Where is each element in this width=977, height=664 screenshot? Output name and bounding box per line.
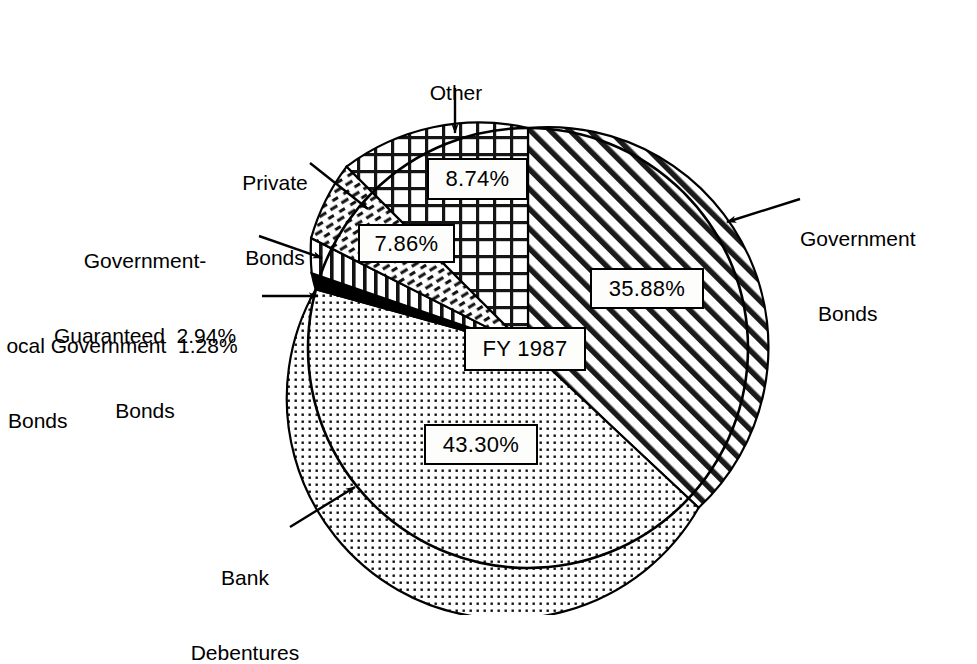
- callout-other-bonds: Other Bonds: [396, 30, 516, 230]
- fiscal-year-label: FY 1987: [483, 338, 568, 360]
- callout-local-government-line1-row: ocal Government 1.28%: [0, 333, 260, 358]
- bank-debentures-value-box: 43.30%: [424, 424, 538, 465]
- callout-government-bonds-line1: Government: [800, 226, 970, 251]
- callout-bank-debentures-line2: Debentures: [155, 640, 335, 664]
- callout-bank-debentures-line1: Bank: [155, 565, 335, 590]
- bank-debentures-value: 43.30%: [443, 434, 519, 456]
- other-bonds-value: 8.74%: [446, 168, 510, 190]
- callout-government-bonds: Government Bonds: [800, 176, 970, 376]
- callout-government-guaranteed-line1: Government-: [30, 248, 260, 273]
- private-bonds-value-box: 7.86%: [358, 224, 455, 263]
- callout-local-government-line1: ocal Government: [6, 334, 166, 357]
- private-bonds-value: 7.86%: [375, 233, 439, 255]
- other-bonds-value-box: 8.74%: [427, 158, 528, 200]
- callout-other-bonds-line1: Other: [396, 80, 516, 105]
- local-government-percent-spacer: [166, 334, 178, 357]
- callout-bank-debentures: Bank Debentures: [155, 515, 335, 664]
- callout-government-bonds-line2: Bonds: [800, 301, 970, 326]
- government-bonds-value: 35.88%: [609, 278, 685, 300]
- callout-local-government-line2: Bonds: [0, 408, 260, 433]
- arrow-government-bonds: [727, 199, 800, 222]
- local-government-percent: 1.28%: [178, 334, 238, 357]
- fiscal-year-center-box: FY 1987: [464, 327, 586, 371]
- government-bonds-value-box: 35.88%: [590, 268, 704, 309]
- callout-local-government-bonds: ocal Government 1.28% Bonds: [0, 283, 260, 483]
- callout-private-bonds-line1: Private: [210, 170, 340, 195]
